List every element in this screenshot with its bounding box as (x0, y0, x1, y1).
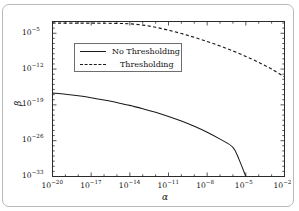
chart-legend: No Thresholding Thresholding (74, 43, 182, 72)
legend-label-0: No Thresholding (112, 45, 180, 58)
legend-swatch-solid (80, 51, 106, 52)
x-tick-label-5: 10−5 (235, 182, 253, 190)
x-tick-label-3: 10−11 (158, 182, 179, 190)
y-tick-label-0: 10−5 (22, 29, 40, 37)
caption-strip (10, 205, 289, 210)
y-axis-title: β (13, 101, 23, 106)
y-tick-label-1: 10−12 (22, 65, 43, 73)
x-tick-label-4: 10−8 (196, 182, 214, 190)
legend-item-0: No Thresholding (75, 45, 181, 58)
y-tick-label-4: 10−33 (22, 172, 43, 180)
x-axis-title: α (162, 192, 168, 202)
legend-label-1: Thresholding (120, 58, 174, 71)
x-tick-label-0: 10−20 (42, 182, 63, 190)
series-line-0 (53, 93, 246, 176)
chart-canvas (0, 0, 299, 211)
legend-swatch-dashed (80, 64, 106, 65)
x-tick-label-2: 10−14 (119, 182, 140, 190)
y-tick-label-2: 10−19 (22, 100, 43, 108)
x-tick-label-1: 10−17 (80, 182, 101, 190)
x-tick-label-6: 10−2 (274, 182, 292, 190)
legend-item-1: Thresholding (75, 58, 181, 71)
y-tick-label-3: 10−26 (22, 136, 43, 144)
